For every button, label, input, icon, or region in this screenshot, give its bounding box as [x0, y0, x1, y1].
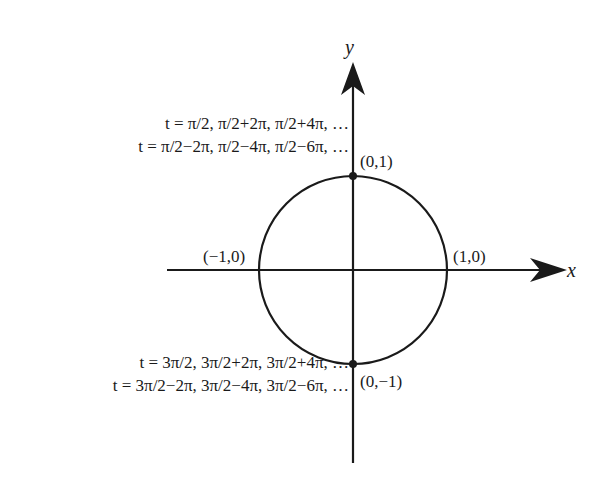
annotation-top-line2: t = π/2−2π, π/2−4π, π/2−6π, … [138, 137, 349, 157]
x-axis-label: x [567, 260, 576, 280]
point-label-right: (1,0) [453, 247, 486, 267]
point-bottom-marker [349, 360, 357, 368]
point-top-marker [349, 172, 357, 180]
unit-circle-diagram [0, 0, 591, 489]
point-label-top: (0,1) [360, 152, 393, 172]
annotation-bottom-line1: t = 3π/2, 3π/2+2π, 3π/2+4π, … [139, 353, 349, 373]
annotation-top-line1: t = π/2, π/2+2π, π/2+4π, … [165, 114, 349, 134]
annotation-bottom-line2: t = 3π/2−2π, 3π/2−4π, 3π/2−6π, … [113, 376, 349, 396]
point-label-left: (−1,0) [203, 247, 245, 267]
point-label-bottom: (0,−1) [360, 372, 402, 392]
y-axis-label: y [345, 37, 354, 57]
